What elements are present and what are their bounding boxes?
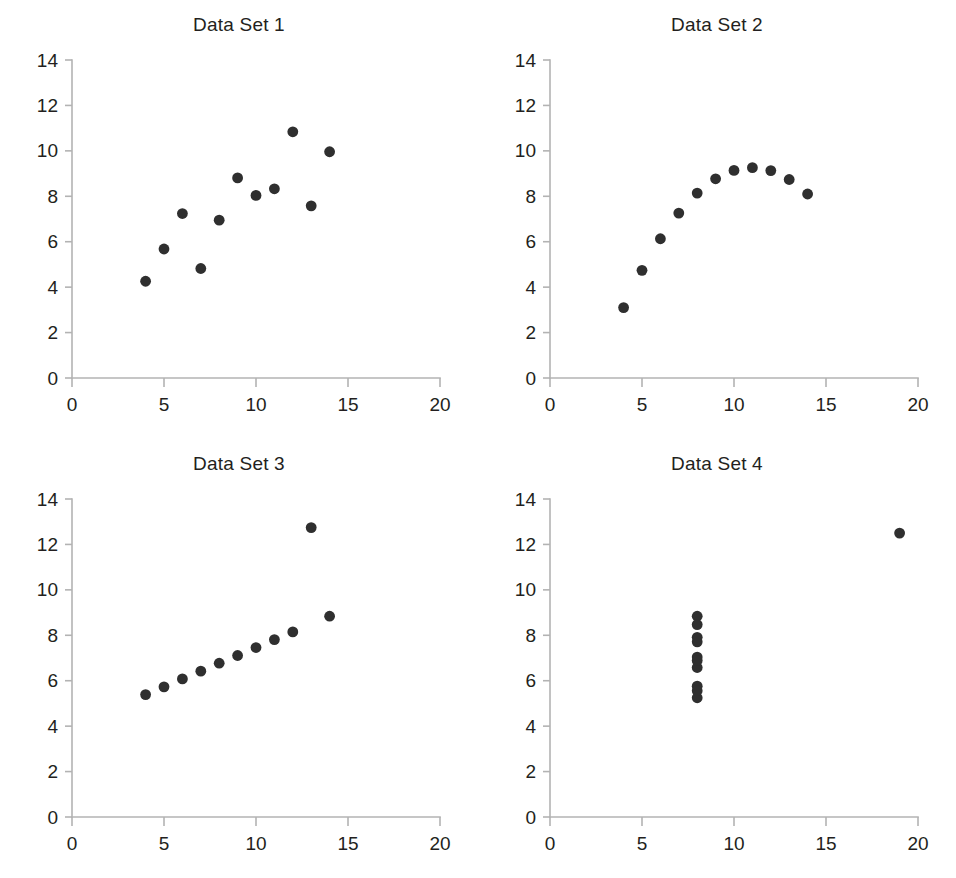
y-tick-label: 14: [37, 489, 59, 510]
data-point: [306, 522, 317, 533]
data-point: [287, 626, 298, 637]
y-tick-label: 14: [515, 489, 537, 510]
chart-panel-4: Data Set 40246810121405101520: [478, 439, 956, 878]
y-tick-label: 14: [37, 50, 59, 71]
data-point: [269, 634, 280, 645]
data-point: [673, 208, 684, 219]
x-tick-label: 10: [245, 394, 266, 415]
data-point: [269, 183, 280, 194]
y-tick-label: 0: [47, 807, 58, 828]
x-tick-label: 0: [545, 394, 556, 415]
chart-panel-2: Data Set 20246810121405101520: [478, 0, 956, 439]
data-point: [894, 528, 905, 539]
y-tick-label: 12: [515, 95, 536, 116]
y-tick-label: 4: [525, 716, 536, 737]
data-point: [802, 189, 813, 200]
y-tick-label: 4: [47, 277, 58, 298]
x-tick-label: 5: [159, 394, 170, 415]
anscombes-quartet-figure: Data Set 10246810121405101520Data Set 20…: [0, 0, 956, 878]
data-point: [692, 188, 703, 199]
data-point: [710, 173, 721, 184]
x-tick-label: 15: [815, 833, 836, 854]
y-tick-label: 4: [525, 277, 536, 298]
chart-panel-1: Data Set 10246810121405101520: [0, 0, 478, 439]
data-point: [692, 655, 703, 666]
x-tick-label: 5: [637, 833, 648, 854]
data-point-group: [692, 528, 905, 703]
y-tick-label: 12: [515, 534, 536, 555]
data-point: [637, 265, 648, 276]
data-point: [214, 658, 225, 669]
y-tick-label: 12: [37, 534, 58, 555]
x-tick-label: 20: [907, 833, 928, 854]
x-tick-label: 5: [637, 394, 648, 415]
data-point: [232, 172, 243, 183]
data-point: [324, 611, 335, 622]
data-point: [232, 650, 243, 661]
x-tick-label: 10: [723, 394, 744, 415]
y-tick-label: 0: [525, 368, 536, 389]
scatter-plot-2: 0246810121405101520: [478, 0, 956, 439]
data-point: [159, 681, 170, 692]
y-tick-label: 8: [525, 186, 536, 207]
y-tick-label: 10: [37, 140, 58, 161]
data-point: [251, 190, 262, 201]
y-tick-label: 2: [47, 761, 58, 782]
data-point: [784, 174, 795, 185]
data-point: [747, 162, 758, 173]
x-tick-label: 20: [429, 394, 450, 415]
data-point: [140, 689, 151, 700]
x-tick-label: 0: [67, 394, 78, 415]
y-tick-label: 14: [515, 50, 537, 71]
y-tick-label: 6: [47, 670, 58, 691]
data-point: [729, 165, 740, 176]
scatter-plot-4: 0246810121405101520: [478, 439, 956, 878]
y-tick-label: 10: [515, 140, 536, 161]
data-point: [655, 233, 666, 244]
x-tick-label: 15: [337, 833, 358, 854]
data-point: [306, 200, 317, 211]
y-tick-label: 2: [525, 761, 536, 782]
data-point: [765, 165, 776, 176]
y-tick-label: 6: [47, 231, 58, 252]
x-tick-label: 15: [337, 394, 358, 415]
data-point-group: [140, 126, 335, 286]
y-tick-label: 0: [47, 368, 58, 389]
y-tick-label: 8: [47, 186, 58, 207]
data-point: [251, 642, 262, 653]
x-tick-label: 5: [159, 833, 170, 854]
data-point: [287, 126, 298, 137]
data-point: [214, 215, 225, 226]
data-point: [195, 666, 206, 677]
y-tick-label: 2: [47, 322, 58, 343]
data-point: [692, 632, 703, 643]
y-tick-label: 6: [525, 670, 536, 691]
x-tick-label: 10: [245, 833, 266, 854]
data-point: [177, 208, 188, 219]
data-point: [324, 146, 335, 157]
data-point: [177, 673, 188, 684]
y-tick-label: 10: [37, 579, 58, 600]
data-point-group: [618, 162, 813, 313]
y-tick-label: 0: [525, 807, 536, 828]
scatter-plot-1: 0246810121405101520: [0, 0, 478, 439]
x-tick-label: 15: [815, 394, 836, 415]
data-point: [140, 276, 151, 287]
data-point: [195, 263, 206, 274]
data-point: [692, 619, 703, 630]
data-point-group: [140, 522, 335, 700]
x-tick-label: 0: [545, 833, 556, 854]
y-tick-label: 12: [37, 95, 58, 116]
data-point: [159, 244, 170, 255]
x-tick-label: 20: [907, 394, 928, 415]
data-point: [618, 302, 629, 313]
x-tick-label: 20: [429, 833, 450, 854]
x-tick-label: 10: [723, 833, 744, 854]
y-tick-label: 10: [515, 579, 536, 600]
data-point: [692, 685, 703, 696]
x-tick-label: 0: [67, 833, 78, 854]
chart-panel-3: Data Set 30246810121405101520: [0, 439, 478, 878]
y-tick-label: 2: [525, 322, 536, 343]
y-tick-label: 6: [525, 231, 536, 252]
scatter-plot-3: 0246810121405101520: [0, 439, 478, 878]
